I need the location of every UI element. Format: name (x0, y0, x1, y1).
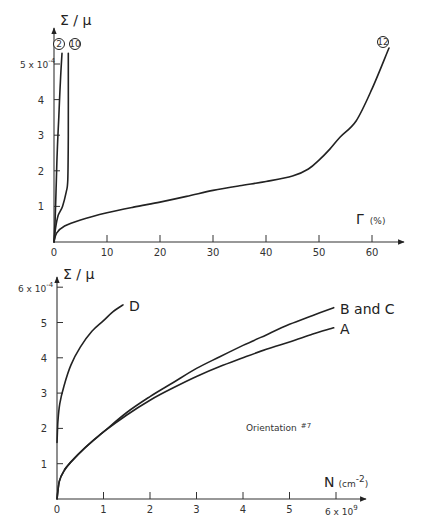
curve-a (57, 328, 334, 499)
x-tick-label: 2 (147, 504, 153, 515)
y-tick-label: 3 (38, 130, 44, 141)
curve-b-and-c (57, 308, 334, 499)
curve-label-A: A (340, 321, 350, 337)
bottom-curves (57, 305, 334, 499)
svg-text:2: 2 (56, 39, 62, 49)
x-tick-label: 50 (313, 247, 326, 258)
y-tick-label: 2 (41, 423, 47, 434)
svg-text:10: 10 (69, 39, 81, 49)
top-curves (54, 48, 389, 242)
x-tick-label: 0 (51, 247, 57, 258)
curve-d (57, 305, 123, 443)
top-ticks: 12340102030405060 (38, 64, 379, 258)
orientation-annotation: Orientation#7 (246, 422, 311, 433)
bottom-chart: 12345012345 Σ / μ 6 x 10-4 N(cm-2) 6 x 1… (18, 266, 395, 517)
x-tick-label: 40 (260, 247, 273, 258)
x-tick-label: 60 (366, 247, 379, 258)
top-chart: 12340102030405060 Σ / μ 5 x 10-4 Γ(%) 2 … (20, 12, 404, 258)
x-tick-label: 5 (286, 504, 292, 515)
x-tick-label: 0 (54, 504, 60, 515)
top-x-axis-label: Γ(%) (356, 211, 385, 227)
x-tick-label: 20 (154, 247, 167, 258)
y-tick-label: 3 (41, 388, 47, 399)
curve-label-10: 10 (69, 39, 81, 50)
curve-label-12: 12 (377, 37, 388, 48)
top-y-axis-label: Σ / μ (60, 12, 91, 28)
x-tick-label: 10 (101, 247, 114, 258)
curve-label-B-and-C: B and C (340, 301, 395, 317)
y-tick-label: 4 (38, 95, 44, 106)
bottom-y-scale-label: 6 x 10-4 (18, 281, 54, 294)
curve-12 (54, 48, 389, 242)
x-tick-label: 3 (193, 504, 199, 515)
y-tick-label: 5 (41, 318, 47, 329)
bottom-ticks: 12345012345 (41, 287, 336, 515)
x-tick-label: 1 (100, 504, 106, 515)
y-tick-label: 1 (41, 459, 47, 470)
figure: 12340102030405060 Σ / μ 5 x 10-4 Γ(%) 2 … (0, 0, 424, 529)
x-tick-label: 4 (240, 504, 246, 515)
bottom-x-scale-label: 6 x 109 (325, 504, 358, 517)
y-tick-label: 4 (41, 353, 47, 364)
svg-text:12: 12 (377, 37, 388, 47)
bottom-y-axis-label: Σ / μ (63, 266, 94, 282)
top-y-scale-label: 5 x 10-4 (20, 57, 56, 70)
bottom-x-axis-label: N(cm-2) (324, 474, 368, 490)
curve-label-D: D (129, 298, 140, 314)
curve-label-2: 2 (54, 39, 65, 50)
x-tick-label: 30 (207, 247, 220, 258)
y-tick-label: 2 (38, 166, 44, 177)
y-tick-label: 1 (38, 201, 44, 212)
